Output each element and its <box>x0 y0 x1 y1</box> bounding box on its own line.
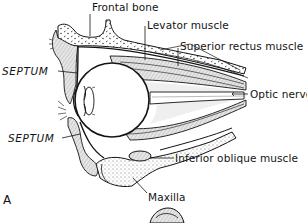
label-frontal-bone: Frontal bone <box>92 1 159 13</box>
panel-b-partial-eye-shape <box>150 208 184 223</box>
orbit-cross-section-illustration <box>0 0 307 223</box>
label-optic-nerve: Optic nerve <box>250 88 307 100</box>
label-maxilla: Maxilla <box>148 191 186 203</box>
label-levator-muscle: Levator muscle <box>147 19 229 31</box>
label-septum-lower: SEPTUM <box>8 132 54 144</box>
label-superior-rectus-muscle: Superior rectus muscle <box>180 40 303 52</box>
eyeball-shape <box>74 63 150 137</box>
inferior-oblique-muscle-shape <box>129 151 151 161</box>
label-inferior-oblique-muscle: Inferior oblique muscle <box>175 152 298 164</box>
panel-letter-a: A <box>3 193 11 207</box>
orbit-anatomy-figure: Frontal bone Levator muscle Superior rec… <box>0 0 307 223</box>
label-septum-upper: SEPTUM <box>2 65 48 77</box>
